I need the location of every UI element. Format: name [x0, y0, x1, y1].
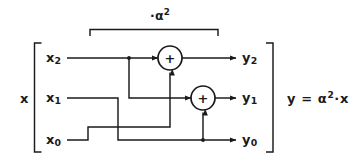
input-x0-index: 0 [55, 137, 62, 148]
scale-factor-label: ·α2 [150, 8, 170, 22]
signal-flow-diagram: ·α2 x x2 x1 x0 y2 y1 y0 + + y = α2·x [0, 0, 363, 162]
output-y2-base: y [242, 50, 251, 65]
input-label-x2: x2 [46, 51, 61, 65]
output-vector-bracket [266, 43, 273, 152]
scale-base: α [155, 8, 164, 23]
equation-rhs-operand: x [340, 91, 349, 106]
scale-exponent: 2 [164, 7, 170, 17]
output-y1-index: 1 [251, 95, 258, 106]
input-vector-bracket [35, 43, 42, 152]
junction-dot-x2-branch [127, 56, 131, 60]
scale-span-bracket [90, 30, 218, 37]
output-y2-index: 2 [251, 55, 258, 66]
equation-operator: = [301, 91, 313, 106]
input-vector-label: x [20, 92, 29, 105]
output-label-y2: y2 [242, 51, 257, 65]
equation-lhs: y [287, 91, 296, 106]
input-label-x0: x0 [46, 133, 61, 147]
output-label-y1: y1 [242, 91, 257, 105]
adder-bottom-plus-icon: + [197, 92, 209, 105]
input-x1-index: 1 [55, 95, 62, 106]
equation-rhs-base: α [318, 91, 328, 106]
output-y0-index: 0 [251, 137, 258, 148]
adder-top-plus-icon: + [164, 52, 176, 65]
result-equation: y = α2·x [287, 91, 349, 105]
junction-dot-y0-tap [201, 138, 205, 142]
input-x2-base: x [46, 50, 55, 65]
output-label-y0: y0 [242, 133, 257, 147]
output-y0-base: y [242, 132, 251, 147]
input-x0-base: x [46, 132, 55, 147]
input-x1-base: x [46, 90, 55, 105]
input-label-x1: x1 [46, 91, 61, 105]
input-x2-index: 2 [55, 55, 62, 66]
output-y1-base: y [242, 90, 251, 105]
